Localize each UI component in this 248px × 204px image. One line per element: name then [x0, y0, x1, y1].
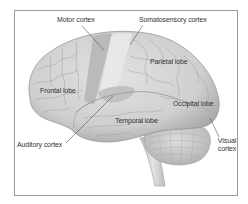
- label-frontal-lobe: Frontal lobe: [40, 87, 76, 95]
- label-auditory-cortex: Auditory cortex: [17, 141, 62, 149]
- label-occipital-lobe: Occipital lobe: [173, 100, 214, 108]
- label-visual-cortex-line1: Visual: [216, 137, 238, 145]
- label-somatosensory-cortex: Somatosensory cortex: [139, 16, 207, 24]
- label-parietal-lobe: Parietal lobe: [150, 58, 188, 66]
- label-visual-cortex-line2: cortex: [216, 145, 238, 153]
- leader-visual-cortex: [210, 118, 219, 137]
- label-visual-cortex: Visual cortex: [216, 137, 238, 153]
- label-motor-cortex: Motor cortex: [57, 16, 95, 24]
- label-temporal-lobe: Temporal lobe: [115, 117, 158, 125]
